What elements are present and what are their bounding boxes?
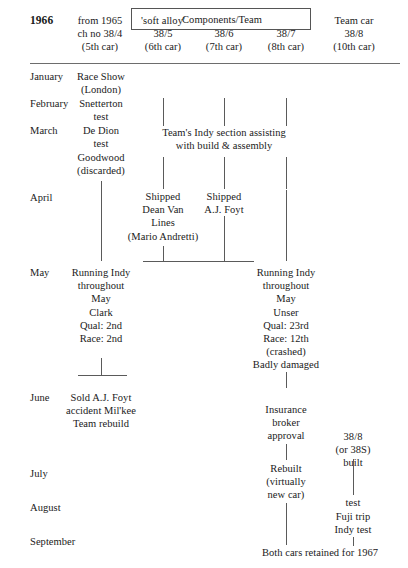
entry-both-cars-retained: Both cars retained for 1967	[262, 546, 378, 559]
month-label-january: January	[30, 70, 63, 83]
connector-merge-bar	[143, 261, 254, 262]
connector-38-7-mid	[286, 157, 287, 189]
connector-38-6-april	[224, 216, 225, 261]
entry-shipped-aj-foyt: Shipped A.J. Foyt	[204, 190, 243, 216]
month-label-february: February	[30, 97, 68, 110]
connector-38-6-mid	[224, 157, 225, 189]
entry-test: test	[346, 496, 361, 509]
entry-team-indy-section: Team's Indy section assisting with build…	[162, 126, 286, 152]
header-column-38-5: 38/5 (6th car)	[145, 27, 181, 53]
connector-38-7-june	[286, 372, 287, 388]
entry-insurance: Insurance broker approval	[265, 403, 306, 443]
month-label-september: September	[30, 535, 75, 548]
entry-shipped-dean-van-lines: Shipped Dean Van Lines (Mario Andretti)	[128, 190, 199, 243]
entry-snetterton: Snetterton test	[79, 97, 123, 123]
header-column-38-4: from 1965 ch no 38/4 (5th car)	[78, 14, 123, 54]
header-column-38-7: 38/7 (8th car)	[268, 27, 304, 53]
header-column-38-8: Team car 38/8 (10th car)	[333, 14, 375, 54]
header-components-team-label: Components/Team	[182, 13, 262, 26]
entry-sold-aj-foyt: Sold A.J. Foyt accident Mil'kee Team reb…	[66, 391, 136, 431]
month-label-april: April	[30, 191, 52, 204]
month-label-march: March	[30, 124, 58, 137]
entry-running-indy-unser: Running Indy throughout May Unser Qual: …	[253, 266, 319, 372]
month-label-june: June	[30, 391, 49, 404]
connector-38-6-top	[224, 98, 225, 126]
connector-38-8-both-cars	[353, 537, 354, 546]
connector-38-8-test	[353, 459, 354, 495]
connector-38-4-april	[101, 181, 102, 261]
entry-de-dion: De Dion test	[83, 124, 119, 150]
connector-insurance-rebuilt	[286, 444, 287, 460]
month-label-august: August	[30, 501, 61, 514]
header-year: 1966	[30, 14, 53, 27]
connector-rebuilt-both-cars	[286, 503, 287, 545]
connector-38-5-mid	[163, 157, 164, 189]
connector-38-7-top	[286, 98, 287, 126]
entry-goodwood: Goodwood (discarded)	[77, 151, 125, 177]
header-divider	[30, 63, 400, 64]
connector-38-5-top	[163, 98, 164, 126]
entry-race-show: Race Show (London)	[77, 70, 125, 96]
connector-38-7-april	[286, 190, 287, 261]
header-column-38-6: 38/6 (7th car)	[206, 27, 242, 53]
entry-fuji-indy: Fuji trip Indy test	[335, 510, 372, 536]
connector-38-4-june-stem	[101, 358, 102, 375]
chassis-history-chart: 1966 from 1965 ch no 38/4 (5th car) 'sof…	[0, 0, 408, 568]
entry-rebuilt: Rebuilt (virtually new car)	[266, 462, 306, 502]
month-label-july: July	[30, 467, 48, 480]
header-soft-alloy-label: 'soft alloy'	[141, 14, 185, 27]
connector-38-5-april	[163, 246, 164, 261]
month-label-may: May	[30, 266, 49, 279]
entry-running-indy-clark: Running Indy throughout May Clark Qual: …	[72, 266, 131, 345]
connector-38-4-june-bar	[78, 375, 127, 376]
